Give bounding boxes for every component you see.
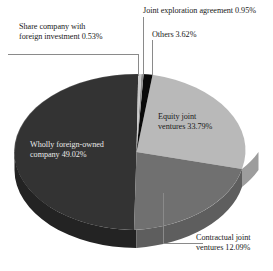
slice-label-line1: Contractual joint <box>196 233 250 243</box>
slice-label-line1: Joint exploration agreement 0.95% <box>143 6 256 16</box>
slice-label-line1: Share company with <box>19 22 103 32</box>
leader-line-share-company-vertical <box>138 54 139 76</box>
slice-label-share-company-with-foreign-investment: Share company with foreign investment 0.… <box>19 22 103 42</box>
slice-label-line2: company 49.02% <box>30 150 104 160</box>
slice-label-line1: Equity joint <box>158 112 212 122</box>
leader-line-contractual-vertical <box>163 193 164 243</box>
leader-line-others-vertical <box>152 40 153 76</box>
leader-line-joint-exploration-vertical <box>143 17 144 76</box>
slice-label-others: Others 3.62% <box>152 30 196 40</box>
slice-label-line2: foreign investment 0.53% <box>19 32 103 42</box>
leader-line-share-company-horizontal <box>8 54 138 55</box>
pie-chart: Share company with foreign investment 0.… <box>0 0 273 271</box>
slice-label-joint-exploration-agreement: Joint exploration agreement 0.95% <box>143 6 256 16</box>
slice-label-line1: Wholly foreign-owned <box>30 140 104 150</box>
slice-label-equity-joint-ventures: Equity joint ventures 33.79% <box>158 112 212 132</box>
slice-label-contractual-joint-ventures: Contractual joint ventures 12.09% <box>196 233 250 253</box>
slice-label-wholly-foreign-owned-company: Wholly foreign-owned company 49.02% <box>30 140 104 160</box>
slice-label-line1: Others 3.62% <box>152 30 196 40</box>
slice-label-line2: ventures 12.09% <box>196 243 250 253</box>
slice-label-line2: ventures 33.79% <box>158 122 212 132</box>
